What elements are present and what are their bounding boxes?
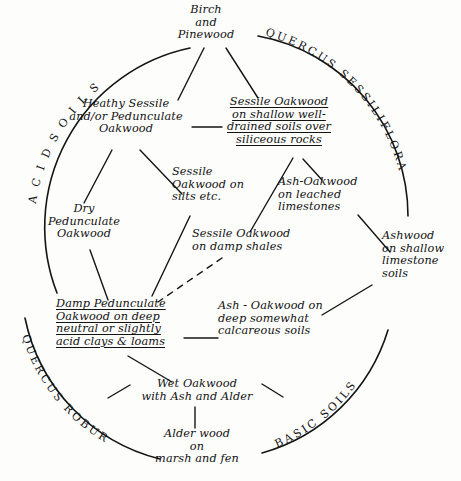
diagram-canvas: A C I D S O I L S QUERCUS SESSILIFLORA Q… <box>0 0 461 481</box>
arc-label-basic-soils: BASIC SOILS <box>273 378 360 451</box>
node-sessile-oakwood-shales[interactable]: Sessile Oakwood on damp shales <box>192 228 310 253</box>
connector-dry-pedunculate-to-damp-pedunculate <box>90 250 108 300</box>
node-wet-oakwood-ash-alder[interactable]: Wet Oakwood with Ash and Alder <box>132 378 262 403</box>
connector-robur-tick <box>108 385 130 398</box>
node-ash-oakwood-leached[interactable]: Ash-Oakwood on leached limestones <box>278 176 374 214</box>
connector-heathy-to-dry-pedunculate <box>84 150 112 203</box>
node-dry-pedunculate-oakwood[interactable]: Dry Pedunculate Oakwood <box>36 203 132 241</box>
node-sessile-oakwood-shallow[interactable]: Sessile Oakwood on shallow well- drained… <box>218 96 340 147</box>
node-sessile-oakwood-silts[interactable]: Sessile Oakwood on silts etc. <box>172 166 264 204</box>
node-heathy-sessile-oakwood[interactable]: Heathy Sessile and/or Pedunculate Oakwoo… <box>56 98 196 136</box>
node-alder-wood-marsh-fen[interactable]: Alder wood on marsh and fen <box>138 428 256 466</box>
node-ashwood-shallow-limestone[interactable]: Ashwood on shallow limestone soils <box>382 230 460 281</box>
arc-label-quercus-robur: QUERCUS ROBUR <box>19 333 112 446</box>
connector-silts-to-damp-pedunculate <box>152 216 190 296</box>
node-damp-pedunculate-oakwood[interactable]: Damp Pedunculate Oakwood on deep neutral… <box>56 298 186 349</box>
connector-basic-tick <box>262 384 283 397</box>
connector-birch-to-sessile-shallow <box>226 48 258 98</box>
node-ash-oakwood-calcareous[interactable]: Ash - Oakwood on deep somewhat calcareou… <box>218 300 334 338</box>
arc-basic-soils <box>262 330 388 453</box>
connector-birch-to-heathy <box>178 48 204 100</box>
arc-acid-soils <box>45 48 190 293</box>
node-birch-and-pinewood[interactable]: Birch and Pinewood <box>160 4 252 42</box>
